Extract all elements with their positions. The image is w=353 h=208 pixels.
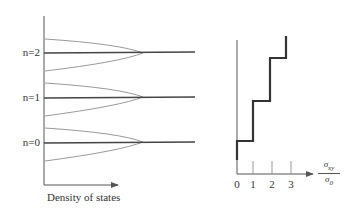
landau-level-n0 xyxy=(44,142,195,143)
tick-label-1: 1 xyxy=(250,179,256,190)
tick-label-3: 3 xyxy=(288,179,294,190)
numerator-subscript: xy xyxy=(328,164,334,172)
landau-level-n2 xyxy=(44,52,195,53)
left-panel xyxy=(44,16,195,185)
level-label-n1: n=1 xyxy=(23,92,40,103)
dos-curve-n1 xyxy=(45,83,143,116)
hall-plateau-staircase xyxy=(237,36,286,160)
dos-curve-n2 xyxy=(45,39,143,71)
level-label-n0: n=0 xyxy=(23,137,40,148)
landau-level-n1 xyxy=(44,97,195,98)
tick-label-0: 0 xyxy=(234,179,240,190)
tick-label-2: 2 xyxy=(269,179,275,190)
dos-axis-label: Density of states xyxy=(47,192,120,203)
right-panel xyxy=(237,36,313,174)
denominator-subscript: 0 xyxy=(329,179,333,187)
dos-curve-n0 xyxy=(45,128,143,161)
level-label-n2: n=2 xyxy=(23,47,40,58)
diagram-canvas xyxy=(0,0,353,208)
hall-conductivity-ratio-label: σxy σ0 xyxy=(318,160,340,187)
